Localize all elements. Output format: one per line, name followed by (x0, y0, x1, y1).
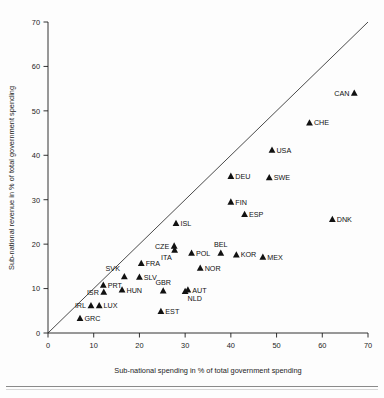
y-tick-label: 20 (32, 240, 40, 249)
data-point-marker (266, 174, 273, 180)
data-point-marker (100, 289, 107, 295)
data-point-label: KOR (241, 250, 257, 259)
data-point-label: LUX (104, 301, 118, 310)
data-point-marker (217, 249, 224, 255)
data-point-label: FIN (235, 198, 247, 207)
y-axis-ticks: 010203040506070 (32, 18, 48, 338)
data-point: USA (269, 146, 292, 155)
data-point-label: CHE (314, 118, 329, 127)
data-point-marker (173, 220, 180, 226)
reference-line (48, 22, 368, 333)
data-point: ESP (241, 210, 263, 219)
data-point: DEU (227, 172, 250, 181)
data-point-label: PRT (108, 281, 123, 290)
data-point-label: ITA (161, 253, 172, 262)
data-point-label: IRL (75, 301, 86, 310)
data-point: MEX (259, 253, 283, 262)
data-point-label: AUT (192, 286, 207, 295)
data-point-marker (329, 216, 336, 222)
data-point: SWE (266, 173, 290, 182)
y-tick-label: 30 (32, 196, 40, 205)
data-point-group: CANCHEUSASWEDEUFINESPDNKISLCZEITAPOLBELK… (75, 89, 358, 323)
data-point-marker (77, 315, 84, 321)
data-point: HUN (119, 286, 142, 295)
data-point: CAN (334, 89, 357, 98)
data-point-marker (96, 302, 103, 308)
data-point-marker (188, 249, 195, 255)
data-point-label: CZE (155, 242, 170, 251)
data-point-marker (88, 302, 95, 308)
scatter-chart-figure: 010203040506070 010203040506070 CANCHEUS… (0, 0, 384, 398)
y-tick-label: 10 (32, 284, 40, 293)
x-tick-label: 30 (181, 341, 189, 350)
y-tick-label: 70 (32, 18, 40, 27)
y-tick-label: 50 (32, 107, 40, 116)
plot-canvas: 010203040506070 010203040506070 CANCHEUS… (0, 0, 384, 398)
data-point-marker (227, 198, 234, 204)
data-point-marker (160, 287, 167, 293)
data-point-marker (121, 273, 128, 279)
data-point-label: NOR (205, 264, 221, 273)
data-point: LUX (96, 301, 118, 310)
data-point: KOR (233, 250, 256, 259)
data-point-label: SWE (274, 173, 291, 182)
y-axis-title: Sub-national revenue in % of total gover… (7, 86, 16, 270)
data-point-marker (351, 90, 358, 96)
data-point-label: DEU (235, 172, 250, 181)
x-tick-label: 40 (227, 341, 235, 350)
data-point-marker (197, 265, 204, 271)
data-point-label: NLD (188, 294, 202, 303)
y-tick-label: 40 (32, 151, 40, 160)
x-tick-label: 20 (135, 341, 143, 350)
data-point: EST (158, 307, 180, 316)
x-tick-label: 0 (46, 341, 50, 350)
data-point-label: ESP (249, 210, 264, 219)
data-point-label: MEX (267, 253, 283, 262)
x-axis-title: Sub-national spending in % of total gove… (114, 366, 301, 375)
data-point-label: POL (196, 249, 210, 258)
data-point-label: SVK (106, 264, 121, 273)
data-point-marker (136, 273, 143, 279)
data-point: IRL (75, 301, 94, 310)
data-point-label: ISL (180, 219, 191, 228)
data-point-label: FRA (146, 259, 161, 268)
data-point-marker (269, 146, 276, 152)
data-point: GRC (77, 314, 101, 323)
data-point-marker (158, 308, 165, 314)
data-point: PRT (100, 281, 123, 290)
data-point-label: ISR (87, 288, 99, 297)
data-point-label: GBR (155, 278, 171, 287)
data-point-marker (227, 173, 234, 179)
data-point-label: USA (276, 146, 291, 155)
data-point-marker (233, 251, 240, 257)
x-tick-label: 60 (318, 341, 326, 350)
data-point: DNK (329, 215, 352, 224)
data-point-marker (259, 253, 266, 259)
data-point: SVK (106, 264, 128, 279)
x-tick-label: 50 (272, 341, 280, 350)
footer-divider (6, 386, 378, 387)
data-point: NOR (197, 264, 221, 273)
data-point-marker (138, 260, 145, 266)
y-tick-label: 0 (36, 329, 40, 338)
data-point: GBR (155, 278, 171, 294)
y-tick-label: 60 (32, 62, 40, 71)
data-point-label: CAN (334, 89, 349, 98)
data-point-label: HUN (126, 286, 142, 295)
footer-divider-shadow (6, 389, 378, 390)
data-point-marker (100, 281, 107, 287)
x-tick-label: 70 (364, 341, 372, 350)
data-point: ISR (87, 288, 107, 297)
x-tick-label: 10 (90, 341, 98, 350)
data-point: BEL (214, 240, 228, 256)
data-point: FIN (227, 198, 246, 207)
data-point-label: EST (165, 307, 180, 316)
data-point: SLV (136, 273, 157, 282)
data-point-label: BEL (214, 240, 228, 249)
reference-line-45deg (48, 22, 368, 333)
data-point: FRA (138, 259, 160, 268)
data-point-label: GRC (84, 314, 100, 323)
data-point: ISL (173, 219, 192, 228)
x-axis-ticks: 010203040506070 (46, 333, 372, 350)
data-point-marker (241, 211, 248, 217)
